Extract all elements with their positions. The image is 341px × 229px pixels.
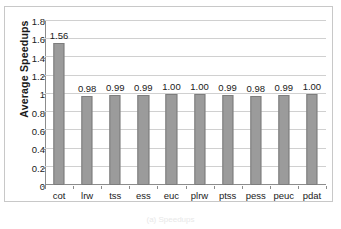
x-axis-label: lrw — [73, 190, 101, 201]
x-axis-label: pdat — [298, 190, 326, 201]
bar-series: 1.560.980.990.991.001.000.990.980.991.00 — [45, 21, 326, 185]
bar — [222, 95, 233, 185]
figure: Average Speedups 00.20.40.60.811.21.41.6… — [0, 0, 341, 229]
x-tick-mark — [298, 186, 299, 189]
y-tick-label: 1.6 — [11, 34, 45, 45]
bar-slot: 1.56 — [45, 21, 73, 185]
x-axis-label: cot — [45, 190, 73, 201]
bar-slot: 0.98 — [242, 21, 270, 185]
bar-slot: 0.98 — [73, 21, 101, 185]
y-tick-label: 1.2 — [11, 71, 45, 82]
x-tick-mark — [129, 186, 130, 189]
x-axis-label: euc — [157, 190, 185, 201]
bar — [278, 95, 289, 185]
bar-slot: 0.99 — [101, 21, 129, 185]
x-tick-mark — [270, 186, 271, 189]
y-tick-label: 0.2 — [11, 162, 45, 173]
x-axis-label: plrw — [185, 190, 213, 201]
bar-value-label: 0.98 — [246, 83, 265, 94]
y-axis-ticks: 00.20.40.60.811.21.41.61.8 — [5, 21, 45, 186]
bar-slot: 1.00 — [298, 21, 326, 185]
bar — [53, 43, 64, 185]
bar-value-label: 0.99 — [106, 82, 125, 93]
bar-value-label: 1.56 — [50, 30, 69, 41]
bar-value-label: 0.99 — [218, 82, 237, 93]
x-tick-mark — [101, 186, 102, 189]
x-tick-mark — [242, 186, 243, 189]
bar — [194, 94, 205, 185]
bar-slot: 1.00 — [157, 21, 185, 185]
bar-slot: 0.99 — [270, 21, 298, 185]
bar-slot: 1.00 — [185, 21, 213, 185]
y-tick-label: 0.8 — [11, 107, 45, 118]
x-axis-label: ess — [129, 190, 157, 201]
bar-value-label: 0.98 — [78, 83, 97, 94]
bar — [82, 96, 93, 185]
bar-slot: 0.99 — [214, 21, 242, 185]
bar-slot: 0.99 — [129, 21, 157, 185]
y-tick-label: 0.6 — [11, 126, 45, 137]
bar-value-label: 1.00 — [190, 81, 209, 92]
bar-value-label: 1.00 — [303, 81, 322, 92]
x-tick-mark — [45, 186, 46, 189]
x-tick-mark — [186, 186, 187, 189]
figure-caption: (a) Speedups — [0, 215, 341, 224]
x-tick-mark — [157, 186, 158, 189]
x-tick-mark — [73, 186, 74, 189]
bar — [306, 94, 317, 185]
x-axis-label: peuc — [270, 190, 298, 201]
x-axis-label: pess — [242, 190, 270, 201]
x-axis-label: tss — [101, 190, 129, 201]
x-tick-mark — [214, 186, 215, 189]
chart-frame: Average Speedups 00.20.40.60.811.21.41.6… — [4, 6, 333, 202]
x-axis-labels: cotlrwtssesseucplrwptsspesspeucpdat — [45, 190, 326, 201]
x-axis-label: ptss — [214, 190, 242, 201]
bar — [138, 95, 149, 185]
plot-area: 1.560.980.990.991.001.000.990.980.991.00 — [45, 21, 326, 185]
x-tick-mark — [326, 186, 327, 189]
y-tick-label: 1 — [11, 89, 45, 100]
bar — [166, 94, 177, 185]
y-tick-label: 1.8 — [11, 16, 45, 27]
bar-value-label: 0.99 — [275, 82, 294, 93]
bar — [250, 96, 261, 185]
y-tick-label: 0.4 — [11, 144, 45, 155]
bar — [110, 95, 121, 185]
y-tick-label: 1.4 — [11, 52, 45, 63]
y-tick-label: 0 — [11, 181, 45, 192]
bar-value-label: 1.00 — [162, 81, 181, 92]
bar-value-label: 0.99 — [134, 82, 153, 93]
